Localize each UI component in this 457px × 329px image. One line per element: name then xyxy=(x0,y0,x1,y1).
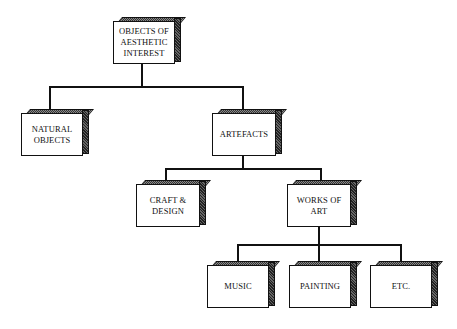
node-label: MUSIC xyxy=(224,281,251,292)
connector-to-natural xyxy=(49,86,51,110)
node-label: ARTEFACTS xyxy=(220,129,268,140)
node-objects-of-aesthetic-interest: OBJECTS OFAESTHETICINTEREST xyxy=(113,17,181,65)
node-painting: PAINTING xyxy=(289,261,357,309)
node-music: MUSIC xyxy=(207,261,275,309)
node-works-of-art: WORKS OFART xyxy=(287,180,357,228)
node-label: CRAFT &DESIGN xyxy=(150,195,187,217)
hierarchy-diagram: OBJECTS OFAESTHETICINTEREST NATURALOBJEC… xyxy=(0,0,457,329)
node-label: NATURALOBJECTS xyxy=(32,124,72,146)
node-label: OBJECTS OFAESTHETICINTEREST xyxy=(119,26,169,59)
node-artefacts: ARTEFACTS xyxy=(212,109,282,157)
connector-level2-bar xyxy=(49,86,244,88)
connector-to-artefacts xyxy=(242,86,244,110)
node-label: WORKS OFART xyxy=(297,195,342,217)
node-craft-and-design: CRAFT &DESIGN xyxy=(136,180,206,228)
node-label: ETC. xyxy=(392,281,411,292)
connector-level3-bar xyxy=(165,168,322,170)
node-natural-objects: NATURALOBJECTS xyxy=(21,109,89,157)
connector-root-stem xyxy=(141,63,143,88)
node-label: PAINTING xyxy=(300,281,340,292)
node-etc: ETC. xyxy=(370,261,438,309)
